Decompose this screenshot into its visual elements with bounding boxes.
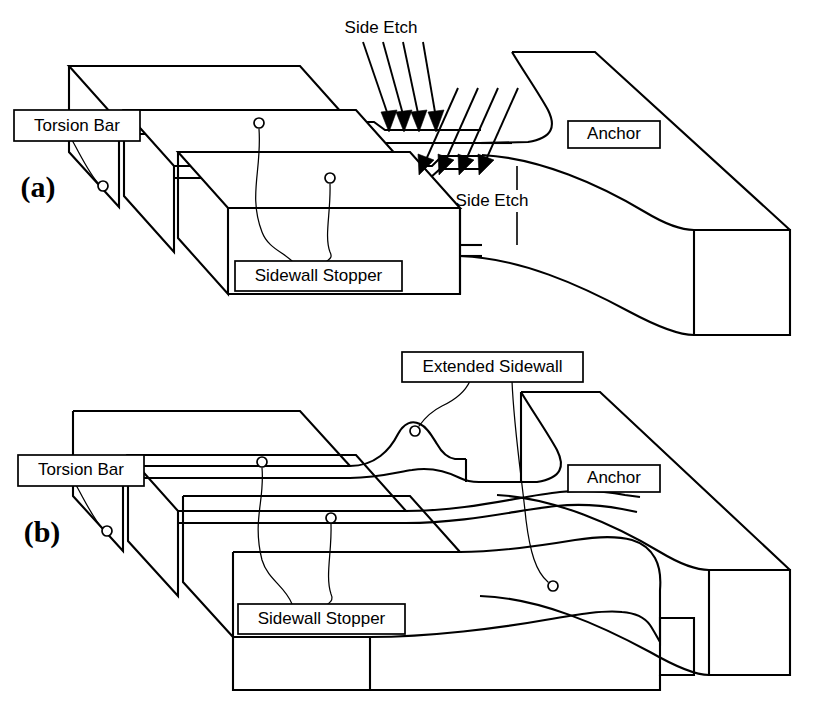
torsion-bar-label-text-b: Torsion Bar <box>38 460 124 479</box>
label-anchor-a[interactable]: Anchor <box>568 121 660 148</box>
sidewall-stopper-label-text-b: Sidewall Stopper <box>258 609 386 628</box>
sidewall-stopper-callout-dot-b1 <box>257 457 267 467</box>
label-extended-sidewall-b[interactable]: Extended Sidewall <box>402 352 583 382</box>
side-etch-label-upper: Side Etch <box>345 18 418 37</box>
anchor-label-text-b: Anchor <box>587 468 641 487</box>
label-torsion-bar-a[interactable]: Torsion Bar <box>14 110 140 141</box>
figure-root: Torsion Bar Sidewall Stopper Anchor Side… <box>0 0 813 703</box>
extended-sidewall-label-text-b: Extended Sidewall <box>423 357 563 376</box>
panel-b-tag: (b) <box>24 515 61 549</box>
sidewall-stopper-callout-dot-a1 <box>254 118 264 128</box>
label-anchor-b[interactable]: Anchor <box>568 465 660 492</box>
extended-sidewall-callout-dot-b2 <box>548 581 558 591</box>
label-sidewall-stopper-a[interactable]: Sidewall Stopper <box>235 261 402 291</box>
sidewall-stopper-callout-dot-a2 <box>325 173 335 183</box>
label-sidewall-stopper-b[interactable]: Sidewall Stopper <box>238 604 405 634</box>
torsion-bar-label-text-a: Torsion Bar <box>34 116 120 135</box>
torsion-bar-callout-dot-b <box>102 526 112 536</box>
mems-diagram-svg: Torsion Bar Sidewall Stopper Anchor Side… <box>0 0 813 703</box>
anchor-label-text-a: Anchor <box>587 124 641 143</box>
side-etch-label-lower: Side Etch <box>456 191 529 210</box>
sidewall-stopper-label-text-a: Sidewall Stopper <box>255 266 383 285</box>
extended-sidewall-callout-dot-b1 <box>410 426 420 436</box>
label-torsion-bar-b[interactable]: Torsion Bar <box>18 455 144 486</box>
sidewall-stopper-callout-dot-b2 <box>326 513 336 523</box>
panel-a-tag: (a) <box>21 170 56 204</box>
torsion-bar-callout-dot-a <box>98 181 108 191</box>
